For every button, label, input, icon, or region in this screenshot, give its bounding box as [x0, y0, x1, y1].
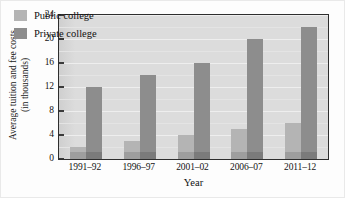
bar-private-college — [140, 75, 156, 159]
legend-item-private: Private college — [14, 26, 97, 41]
y-axis-tickmark — [59, 110, 64, 111]
legend-item-public: Public college — [14, 8, 97, 23]
bar-chart-figure: Average tuition and fee costs (in thousa… — [0, 0, 345, 198]
bar-private-college — [247, 39, 263, 159]
y-axis-tickmark — [59, 86, 64, 87]
legend-swatch-private-icon — [14, 28, 27, 39]
y-axis-title-line1: Average tuition and fee costs — [8, 30, 18, 140]
y-axis-tick-label: 16 — [45, 57, 54, 67]
gridline-minor — [59, 27, 328, 28]
bar-private-college — [194, 63, 210, 159]
x-axis-tick-label: 2001–02 — [176, 162, 209, 172]
gridline — [59, 39, 328, 40]
legend-swatch-public-icon — [14, 10, 27, 21]
legend-label-private: Private college — [34, 28, 97, 39]
bar-base-shadow — [178, 152, 210, 159]
bar-base-shadow — [124, 152, 156, 159]
plot-area — [58, 14, 329, 160]
bar-private-college — [301, 27, 317, 159]
y-axis-title-line2: (in thousands) — [19, 30, 31, 140]
y-axis-tick-label: 8 — [49, 105, 54, 115]
gridline-minor — [59, 51, 328, 52]
gridline — [59, 15, 328, 16]
y-axis-tick-label: 4 — [49, 129, 54, 139]
bar-base-shadow — [70, 152, 102, 159]
y-axis-tick-label: 12 — [45, 81, 54, 91]
chart-legend: Public college Private college — [14, 8, 97, 44]
y-axis-tickmark — [59, 62, 64, 63]
y-axis-tickmark — [59, 134, 64, 135]
x-axis-tick-label: 2011–12 — [284, 162, 316, 172]
x-axis-tick-label: 1996–97 — [122, 162, 155, 172]
x-axis-tick-label: 2006–07 — [230, 162, 263, 172]
x-axis-tick-label: 1991–92 — [69, 162, 102, 172]
y-axis-tick-label: 0 — [49, 153, 54, 163]
y-axis-tickmark — [59, 158, 64, 159]
bar-private-college — [86, 87, 102, 159]
x-axis-tick-labels: 1991–921996–972001–022006–072011–12 — [58, 162, 329, 176]
x-axis-title: Year — [58, 177, 329, 188]
legend-label-public: Public college — [34, 10, 94, 21]
bar-base-shadow — [231, 152, 263, 159]
bar-base-shadow — [285, 152, 317, 159]
plot-background — [59, 15, 328, 159]
